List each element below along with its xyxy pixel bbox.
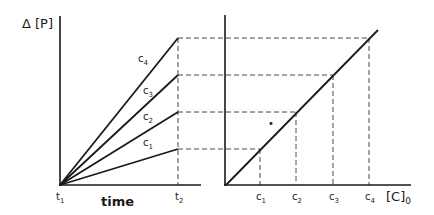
- x-axis-label-time: time: [101, 194, 134, 209]
- tick-t1: t1: [56, 191, 64, 205]
- line-c3: [60, 75, 178, 185]
- line-c1: [60, 149, 178, 185]
- left-plot: Δ [P] c1 c2 c3 c4 t1 t2 time: [22, 16, 201, 209]
- x-axis-label-c0: [C]0: [386, 189, 411, 206]
- tick-c2: c2: [292, 191, 302, 205]
- label-c1: c1: [143, 137, 153, 151]
- line-c4: [60, 38, 178, 185]
- y-axis-label: Δ [P]: [22, 16, 53, 31]
- label-c2: c2: [143, 111, 153, 125]
- tick-c1: c1: [256, 191, 266, 205]
- tick-c3: c3: [329, 191, 339, 205]
- projection-lines: [178, 38, 369, 185]
- tick-t2: t2: [175, 191, 183, 205]
- marker-dot: •: [268, 118, 274, 129]
- tick-c4: c4: [365, 191, 376, 205]
- right-plot: • c1 c2 c3 c4 [C]0: [224, 15, 411, 206]
- line-c2: [60, 112, 178, 185]
- line-p-vs-c0: [226, 30, 378, 185]
- diagram-canvas: Δ [P] c1 c2 c3 c4 t1 t2 time • c1 c2 c3 …: [0, 0, 434, 215]
- label-c3: c3: [143, 85, 153, 99]
- label-c4: c4: [138, 53, 149, 67]
